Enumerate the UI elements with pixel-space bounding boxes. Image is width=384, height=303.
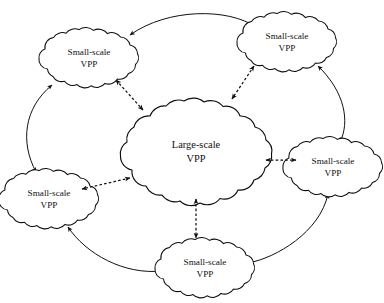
small-scale-vpp-right-label-line2: VPP xyxy=(325,168,342,178)
small-scale-vpp-bottom-label-line2: VPP xyxy=(197,269,214,279)
large-scale-vpp-label-line2: VPP xyxy=(186,153,205,164)
small-scale-vpp-top-right-label-line1: Small-scale xyxy=(266,31,309,41)
vpp-network-diagram: Large-scale VPP Small-scale VPP Small-sc… xyxy=(0,0,384,303)
small-scale-vpp-top-left-label-line1: Small-scale xyxy=(68,47,111,57)
small-scale-vpp-right-label-line1: Small-scale xyxy=(312,156,355,166)
small-scale-vpp-left-label-line1: Small-scale xyxy=(28,188,71,198)
small-scale-vpp-top-right-label-line2: VPP xyxy=(279,43,296,53)
vpp-architecture-figure: Large-scale VPP Small-scale VPP Small-sc… xyxy=(0,0,384,303)
small-scale-vpp-left-label-line2: VPP xyxy=(41,200,58,210)
small-scale-vpp-bottom-label-line1: Small-scale xyxy=(184,257,227,267)
large-scale-vpp-label-line1: Large-scale xyxy=(172,139,221,150)
small-scale-vpp-top-left-label-line2: VPP xyxy=(81,59,98,69)
